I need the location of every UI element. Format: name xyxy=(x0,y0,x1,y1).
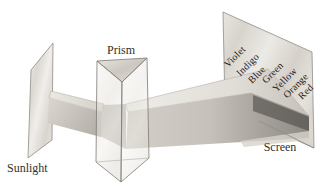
prism-front-left-face xyxy=(96,61,122,182)
prism-solid xyxy=(96,58,149,182)
prism-label: Prism xyxy=(107,43,136,57)
sunlight-label: Sunlight xyxy=(7,161,48,175)
dispersion-diagram: Prism Sunlight Screen Violet Indigo Blue… xyxy=(0,0,327,191)
dispersion-figure: Prism Sunlight Screen Violet Indigo Blue… xyxy=(0,0,327,191)
screen-label: Screen xyxy=(264,140,297,154)
